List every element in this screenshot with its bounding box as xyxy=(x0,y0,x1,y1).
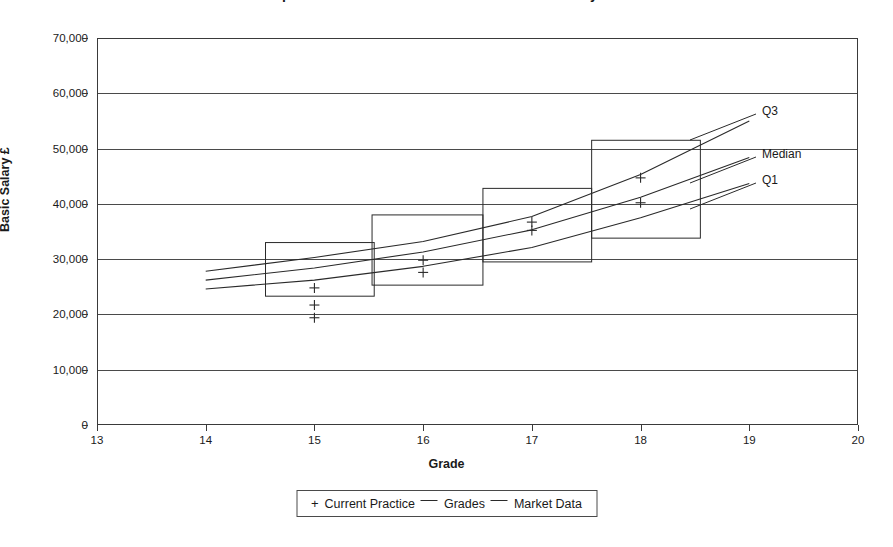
x-axis-tick-mark xyxy=(97,425,98,431)
current-practice-marker xyxy=(636,198,646,208)
market-data-line-median xyxy=(206,157,750,280)
x-axis-tick-label: 15 xyxy=(308,434,321,446)
grade-boxes xyxy=(266,140,701,296)
y-axis-tick-mark xyxy=(82,259,88,260)
x-axis-tick-label: 14 xyxy=(199,434,212,446)
market-data-line-q3 xyxy=(206,121,750,271)
x-axis-tick-mark xyxy=(206,425,207,431)
legend-marker-plus-icon: + xyxy=(311,496,319,511)
x-axis-tick-mark xyxy=(532,425,533,431)
legend-item-grades: Grades xyxy=(444,497,485,511)
x-axis-tick-mark xyxy=(858,425,859,431)
y-axis-tick-labels: 010,00020,00030,00040,00050,00060,00070,… xyxy=(0,38,88,425)
grade-box xyxy=(592,140,701,238)
x-axis-title: Grade xyxy=(0,457,893,471)
series-label-q1: Q1 xyxy=(762,173,778,187)
grade-box xyxy=(372,215,483,285)
legend-dash-icon-1 xyxy=(421,500,438,501)
current-practice-marker xyxy=(527,225,537,235)
chart-container: Comparison of Current Practice with Mark… xyxy=(0,0,893,547)
current-practice-marker xyxy=(636,173,646,183)
x-axis-tick-label: 19 xyxy=(743,434,756,446)
x-axis-tick-mark xyxy=(423,425,424,431)
legend-item-market-data: Market Data xyxy=(514,497,582,511)
market-data-line-q1 xyxy=(206,183,750,289)
x-axis-tick-mark xyxy=(314,425,315,431)
current-practice-markers xyxy=(309,173,645,323)
series-label-q3: Q3 xyxy=(762,104,778,118)
current-practice-marker xyxy=(418,267,428,277)
x-axis-tick-label: 17 xyxy=(525,434,538,446)
y-axis-tick-mark xyxy=(82,370,88,371)
x-axis-tick-label: 20 xyxy=(852,434,865,446)
x-axis-tick-mark xyxy=(641,425,642,431)
current-practice-marker xyxy=(309,313,319,323)
x-axis-tick-label: 18 xyxy=(634,434,647,446)
y-axis-tick-mark xyxy=(82,425,88,426)
x-axis-tick-mark xyxy=(749,425,750,431)
chart-title: Comparison of Current Practice with Mark… xyxy=(0,0,893,2)
legend-item-current-practice: Current Practice xyxy=(325,497,415,511)
current-practice-marker xyxy=(309,300,319,310)
y-axis-tick-mark xyxy=(82,149,88,150)
series-label-median: Median xyxy=(762,147,801,161)
y-axis-title: Basic Salary £ xyxy=(0,147,12,232)
x-axis-tick-label: 13 xyxy=(91,434,104,446)
y-axis-tick-mark xyxy=(82,38,88,39)
market-data-lines xyxy=(206,121,750,289)
legend-dash-icon-2 xyxy=(491,500,508,501)
x-axis-tick-labels: 1314151617181920 xyxy=(97,425,858,455)
chart-legend: + Current Practice Grades Market Data xyxy=(296,490,597,517)
x-axis-tick-label: 16 xyxy=(417,434,430,446)
y-axis-tick-mark xyxy=(82,93,88,94)
current-practice-marker xyxy=(309,283,319,293)
current-practice-marker xyxy=(418,255,428,265)
data-layer xyxy=(97,38,858,425)
y-axis-tick-mark xyxy=(82,314,88,315)
y-axis-tick-mark xyxy=(82,204,88,205)
